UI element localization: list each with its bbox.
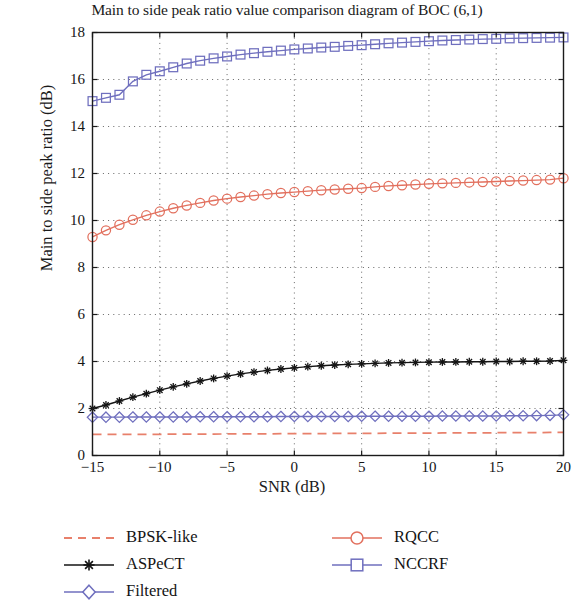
y-tick-label: 6 (51, 306, 85, 323)
x-tick-label: −5 (205, 459, 249, 476)
data-marker (116, 397, 124, 405)
data-marker (358, 360, 366, 368)
data-marker (438, 358, 446, 366)
x-tick-label: 15 (474, 459, 518, 476)
y-tick-label: 10 (51, 212, 85, 229)
y-tick-label: 4 (51, 353, 85, 370)
gridlines (93, 33, 564, 456)
data-marker (344, 360, 352, 368)
data-marker (385, 359, 393, 367)
legend-label-nccrf: NCCRF (394, 556, 448, 573)
x-tick-label: 5 (340, 459, 384, 476)
legend-swatch-filtered (62, 581, 116, 603)
data-marker (506, 358, 514, 366)
axes-frame (93, 33, 564, 456)
legend-label-rqcc: RQCC (394, 529, 439, 546)
legend-item-filtered: Filtered (62, 578, 198, 603)
x-tick-label: 0 (272, 459, 316, 476)
legend-swatch-nccrf (330, 554, 384, 576)
data-marker (210, 375, 218, 383)
y-tick-label: 8 (51, 259, 85, 276)
data-marker (223, 372, 231, 380)
data-marker (169, 383, 177, 391)
legend-item-nccrf: NCCRF (330, 551, 448, 578)
legend-label-aspect: ASPeCT (126, 556, 185, 573)
x-tick-label: 20 (542, 459, 574, 476)
legend-item-aspect: ASPeCT (62, 551, 198, 578)
data-marker (331, 361, 339, 369)
data-marker (264, 367, 272, 375)
y-tick-label: 12 (51, 165, 85, 182)
data-marker (519, 357, 527, 365)
data-marker (304, 363, 312, 371)
legend-swatch-aspect (62, 554, 116, 576)
y-tick-label: 16 (51, 71, 85, 88)
x-tick-label: −10 (138, 459, 182, 476)
data-marker (465, 358, 473, 366)
data-marker (425, 358, 433, 366)
tick-marks (93, 33, 564, 456)
legend-item-rqcc: RQCC (330, 524, 448, 551)
legend-swatch-rqcc (330, 527, 384, 549)
legend-item-bpsk-like: BPSK-like (62, 524, 198, 551)
data-marker (412, 359, 420, 367)
legend-label-filtered: Filtered (126, 583, 177, 600)
data-marker (156, 386, 164, 394)
data-marker (317, 362, 325, 370)
x-tick-label: −15 (71, 459, 115, 476)
y-tick-label: 2 (51, 400, 85, 417)
plot-canvas (0, 0, 574, 603)
data-marker (371, 359, 379, 367)
series-aspect (89, 356, 568, 412)
data-marker (479, 358, 487, 366)
data-marker (196, 377, 204, 385)
figure: Main to side peak ratio value comparison… (0, 0, 574, 603)
data-marker (250, 368, 258, 376)
legend-label-bpsk-like: BPSK-like (126, 529, 198, 546)
x-axis-label: SNR (dB) (92, 477, 492, 497)
chart-legend: BPSK-like ASPeCT Filtered RQCC NCCRF (0, 524, 574, 603)
data-marker (546, 357, 554, 365)
series-bpsk-like (93, 432, 564, 434)
legend-swatch-bpsk-like (62, 527, 116, 549)
data-marker (533, 357, 541, 365)
data-marker (237, 370, 245, 378)
data-marker (398, 359, 406, 367)
data-marker (183, 380, 191, 388)
data-marker (290, 364, 298, 372)
series-filtered (87, 410, 568, 423)
y-tick-label: 18 (51, 24, 85, 41)
x-tick-label: 10 (407, 459, 451, 476)
data-marker (492, 358, 500, 366)
y-tick-label: 14 (51, 118, 85, 135)
data-marker (129, 393, 137, 401)
legend-column-right: RQCC NCCRF (330, 524, 448, 578)
data-marker (142, 390, 150, 398)
data-marker (102, 401, 110, 409)
data-marker (452, 358, 460, 366)
legend-column-left: BPSK-like ASPeCT Filtered (62, 524, 198, 603)
data-marker (277, 365, 285, 373)
